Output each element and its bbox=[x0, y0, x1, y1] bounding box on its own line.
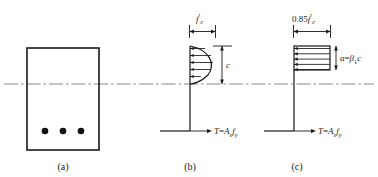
stress-dimension-b bbox=[190, 25, 216, 38]
depth-label-a: a=β1c bbox=[340, 53, 361, 65]
stress-label-b: f′c bbox=[196, 12, 203, 26]
panel-c-rectangular-stress bbox=[264, 25, 338, 133]
stress-arrows-c bbox=[294, 47, 330, 71]
parabolic-stress-curve bbox=[190, 46, 211, 84]
panel-caption-a: (a) bbox=[57, 161, 68, 173]
beam-stress-diagram: f′c c T=Asfy 0.85f′c a=β1c T=Asfy (a) (b… bbox=[0, 0, 378, 177]
beam-section-outline bbox=[27, 48, 99, 150]
depth-dimension-a bbox=[334, 46, 338, 70]
figure-container: f′c c T=Asfy 0.85f′c a=β1c T=Asfy (a) (b… bbox=[0, 0, 378, 177]
tension-force-arrow-b bbox=[190, 129, 212, 133]
panel-a-cross-section bbox=[27, 48, 99, 150]
force-label-c: T=Asfy bbox=[318, 126, 342, 138]
rebar-dot bbox=[60, 128, 67, 135]
panel-caption-c: (c) bbox=[291, 161, 302, 173]
tension-force-arrow-c bbox=[294, 129, 316, 133]
panel-caption-b: (b) bbox=[184, 161, 196, 173]
stress-label-c: 0.85f′c bbox=[292, 12, 315, 26]
whitney-stress-block bbox=[294, 46, 330, 70]
depth-label-c: c bbox=[226, 60, 230, 70]
stress-label-b-sub: c bbox=[200, 18, 203, 25]
stress-label-c-sub: c bbox=[312, 18, 315, 25]
rebar-dot bbox=[42, 128, 49, 135]
depth-a-c: c bbox=[357, 53, 361, 63]
stress-label-c-coef: 0.85 bbox=[292, 14, 308, 24]
stress-dimension-c bbox=[294, 25, 331, 38]
force-b-f-sub: y bbox=[234, 131, 238, 138]
rebar-dot bbox=[78, 128, 85, 135]
force-label-b: T=Asfy bbox=[214, 126, 238, 138]
force-c-f-sub: y bbox=[338, 131, 342, 138]
panel-b-parabolic-stress bbox=[160, 25, 232, 133]
